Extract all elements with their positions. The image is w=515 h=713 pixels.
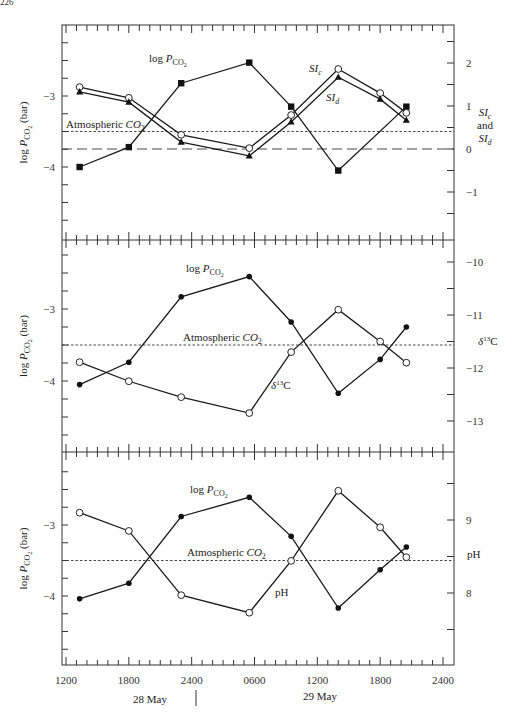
y-left-tick-label: −4 <box>43 161 55 173</box>
y-left-axis-title-text: log PCO2 (bar) <box>17 101 33 163</box>
data-point-logpco2 <box>377 357 383 363</box>
data-point-13c <box>76 359 83 366</box>
y-left-axis-title: log PCO2 (bar) <box>17 527 33 589</box>
data-point-logpco2 <box>335 390 341 396</box>
data-point-13c <box>125 378 132 385</box>
label-log-pco2: log PCO2 <box>149 52 187 68</box>
x-tick-label: 1800 <box>118 674 141 686</box>
label-atmospheric-co2: Atmospheric CO2 <box>187 546 266 561</box>
data-point-13c <box>335 306 342 313</box>
y-right-tick-label: 8 <box>466 587 472 599</box>
data-point-sid <box>178 138 185 144</box>
data-point-ph <box>125 528 132 535</box>
label-sic: SIc <box>309 62 322 77</box>
x-tick-label: 1200 <box>306 674 329 686</box>
data-point-logpco2 <box>246 274 252 280</box>
y-right-axis-title-d13c: δ13C <box>478 335 497 347</box>
data-point-sic <box>288 112 295 119</box>
data-point-logpco2 <box>126 359 132 365</box>
y-left-tick-label: −4 <box>43 590 55 602</box>
label-sid: SId <box>326 91 340 106</box>
label-log-pco2: log PCO2 <box>190 483 228 499</box>
data-point-sic <box>246 145 253 152</box>
label-ph: pH <box>275 586 289 598</box>
y-right-axis-title-ph: pH <box>467 548 481 560</box>
y-left-axis-title-text: log PCO2 (bar) <box>17 527 33 589</box>
label-d13c: δ13C <box>271 379 290 391</box>
data-point-logpco2 <box>246 59 252 65</box>
y-left-axis-title: log PCO2 (bar) <box>17 101 33 163</box>
data-point-ph <box>377 524 384 531</box>
chart-figure: 120018002400060012001800240028 May29 May… <box>0 0 515 713</box>
y-right-tick-label: −1 <box>466 186 478 198</box>
data-point-13c <box>246 410 253 417</box>
y-right-tick-label: 1 <box>466 100 472 112</box>
data-point-ph <box>178 592 185 599</box>
label-atmospheric-co2: Atmospheric CO2 <box>183 331 262 346</box>
x-tick-label: 0600 <box>244 674 267 686</box>
data-point-logpco2 <box>335 605 341 611</box>
data-point-logpco2 <box>335 167 341 173</box>
data-point-logpco2 <box>178 514 184 520</box>
y-left-tick-label: −3 <box>43 90 55 102</box>
data-point-logpco2 <box>288 319 294 325</box>
x-day-label-28-may: 28 May <box>133 693 167 705</box>
y-right-tick-label: −10 <box>466 256 484 268</box>
y-right-tick-label: −11 <box>466 309 483 321</box>
y-right-axis-title-sid: SId <box>478 132 492 147</box>
y-left-tick-label: −4 <box>43 375 55 387</box>
data-point-logpco2 <box>288 103 294 109</box>
y-left-axis-title-text: log PCO2 (bar) <box>17 315 33 377</box>
x-day-label-29-may: 29 May <box>303 690 337 702</box>
x-tick-label: 1200 <box>55 674 78 686</box>
data-point-sic <box>335 66 342 73</box>
data-point-sid <box>403 116 410 122</box>
data-point-ph <box>403 554 410 561</box>
data-point-logpco2 <box>404 324 410 330</box>
data-point-sid <box>335 73 342 79</box>
data-point-13c <box>377 338 384 345</box>
data-point-13c <box>178 394 185 401</box>
data-point-sic <box>178 131 185 138</box>
data-point-13c <box>288 349 295 356</box>
data-point-ph <box>246 609 253 616</box>
x-tick-label: 2400 <box>432 674 455 686</box>
y-right-tick-label: 2 <box>466 57 472 69</box>
data-point-logpco2 <box>246 495 252 501</box>
data-point-ph <box>76 509 83 516</box>
data-point-logpco2 <box>126 144 132 150</box>
y-right-tick-label: −13 <box>466 415 484 427</box>
x-tick-label: 1800 <box>369 674 392 686</box>
data-point-logpco2 <box>77 382 83 388</box>
data-point-sic <box>403 109 410 116</box>
data-point-logpco2 <box>288 534 294 540</box>
data-point-logpco2 <box>377 567 383 573</box>
y-left-tick-label: −3 <box>43 303 55 315</box>
y-right-axis-title-and: and <box>477 119 493 131</box>
data-point-logpco2 <box>403 103 409 109</box>
y-left-tick-label: −3 <box>43 519 55 531</box>
y-right-tick-label: 9 <box>466 514 472 526</box>
data-point-logpco2 <box>178 294 184 300</box>
data-point-ph <box>335 487 342 494</box>
y-right-tick-label: −12 <box>466 362 483 374</box>
data-point-logpco2 <box>178 80 184 86</box>
label-log-pco2: log PCO2 <box>186 262 224 278</box>
data-point-logpco2 <box>76 164 82 170</box>
data-point-13c <box>403 359 410 366</box>
label-atmospheric-co2: Atmospheric CO2 <box>66 118 145 133</box>
series-line-sic <box>80 69 407 148</box>
data-point-ph <box>288 557 295 564</box>
x-tick-label: 2400 <box>181 674 204 686</box>
data-point-logpco2 <box>404 544 410 550</box>
data-point-logpco2 <box>126 580 132 586</box>
y-right-tick-label: 0 <box>466 143 472 155</box>
data-point-logpco2 <box>77 596 83 602</box>
y-left-axis-title: log PCO2 (bar) <box>17 315 33 377</box>
